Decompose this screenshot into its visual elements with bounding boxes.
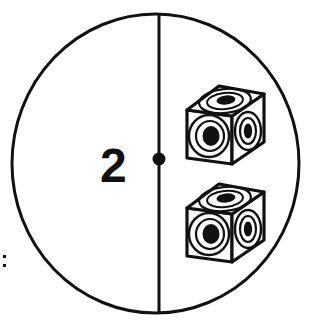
die-upper-right-pip-dot xyxy=(244,124,252,139)
margin-dot-lower xyxy=(3,264,6,267)
die-lower-front-pip xyxy=(189,213,229,255)
die-upper-front-pip-dot xyxy=(203,126,220,146)
dice-diagram-figure: 2 xyxy=(0,0,309,323)
die-upper-front-pip xyxy=(189,115,229,157)
die-lower-right-pip-dot xyxy=(244,222,252,237)
center-dot xyxy=(153,153,166,166)
margin-dot-upper xyxy=(3,255,6,258)
die-lower-front-pip-dot xyxy=(203,224,220,244)
left-half-digit-label: 2 xyxy=(100,139,127,192)
figure-canvas: 2 xyxy=(0,0,309,323)
